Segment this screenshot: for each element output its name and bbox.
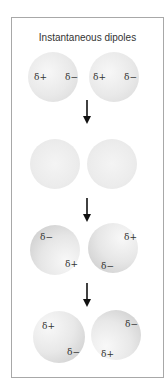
charge-label: δ+	[93, 73, 106, 82]
atom-sphere-stage2-right	[87, 139, 137, 189]
charge-label: δ−	[125, 320, 138, 329]
charge-label: δ+	[101, 350, 114, 359]
atom-sphere-stage2-left	[30, 139, 80, 189]
down-arrow-icon	[82, 198, 92, 222]
charge-label: δ+	[42, 322, 55, 331]
down-arrow-icon	[82, 283, 92, 307]
charge-label: δ−	[40, 233, 53, 242]
charge-label: δ−	[67, 348, 80, 357]
charge-label: δ+	[65, 260, 78, 269]
charge-label: δ+	[34, 73, 47, 82]
down-arrow-icon	[82, 100, 92, 124]
diagram-title: Instantaneous dipoles	[12, 32, 163, 43]
charge-label: δ−	[124, 73, 137, 82]
atom-sphere-stage4-right	[91, 310, 141, 360]
charge-label: δ+	[124, 233, 137, 242]
charge-label: δ−	[101, 262, 114, 271]
charge-label: δ−	[65, 73, 78, 82]
